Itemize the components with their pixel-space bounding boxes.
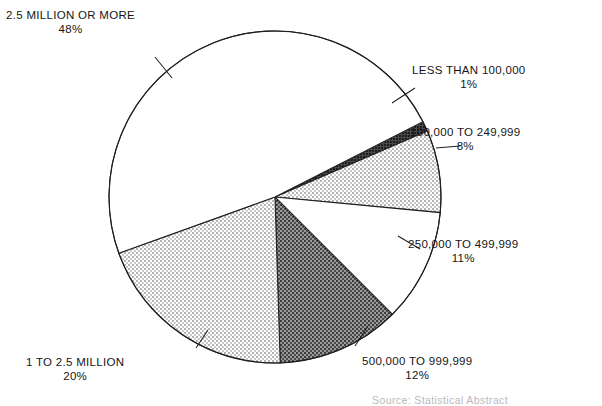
callout-1-to-2-5-million: 1 TO 2.5 MILLION 20% — [26, 356, 124, 383]
callout-label: 2.5 MILLION OR MORE — [6, 9, 135, 21]
callout-100000-to-249999: 100,000 TO 249,999 8% — [410, 126, 520, 153]
callout-500000-to-999999: 500,000 TO 999,999 12% — [362, 355, 472, 382]
callout-percent: 20% — [26, 370, 124, 384]
callout-2-5-million-or-more: 2.5 MILLION OR MORE 48% — [6, 9, 135, 36]
callout-percent: 12% — [362, 369, 472, 383]
callout-label: LESS THAN 100,000 — [412, 64, 526, 76]
callout-less-than-100000: LESS THAN 100,000 1% — [412, 64, 526, 91]
source-credit-line: Source: Statistical Abstract — [372, 394, 508, 406]
callout-percent: 8% — [410, 140, 520, 154]
callout-percent: 48% — [6, 23, 135, 37]
callout-label: 250,000 TO 499,999 — [408, 238, 518, 250]
callout-percent: 1% — [412, 78, 526, 92]
callout-250000-to-499999: 250,000 TO 499,999 11% — [408, 238, 518, 265]
callout-label: 1 TO 2.5 MILLION — [26, 356, 124, 368]
callout-label: 500,000 TO 999,999 — [362, 355, 472, 367]
pie-slice-group — [109, 31, 441, 363]
callout-label: 100,000 TO 249,999 — [410, 126, 520, 138]
callout-percent: 11% — [408, 252, 518, 266]
